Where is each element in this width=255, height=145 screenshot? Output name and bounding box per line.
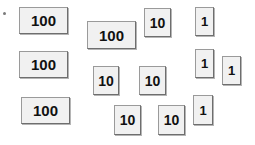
- place-value-card-hundred-4[interactable]: 100: [87, 21, 136, 49]
- card-label: 1: [201, 57, 208, 70]
- card-label: 10: [150, 15, 166, 29]
- card-label: 1: [199, 103, 206, 116]
- place-value-card-ten-5[interactable]: 10: [158, 105, 185, 135]
- place-value-card-ten-2[interactable]: 10: [93, 66, 119, 95]
- place-value-card-ten-3[interactable]: 10: [139, 66, 166, 95]
- place-value-card-hundred-3[interactable]: 100: [21, 97, 70, 124]
- card-label: 10: [145, 73, 161, 87]
- place-value-card-hundred-1[interactable]: 100: [19, 7, 68, 34]
- card-label: 100: [31, 57, 56, 72]
- card-label: 100: [33, 103, 58, 118]
- corner-dot-marker: [3, 12, 6, 15]
- card-label: 10: [98, 73, 114, 87]
- place-value-card-one-4[interactable]: 1: [193, 95, 213, 125]
- place-value-card-ten-4[interactable]: 10: [114, 105, 141, 135]
- card-label: 100: [31, 13, 56, 28]
- card-label: 1: [228, 64, 235, 77]
- place-value-card-hundred-2[interactable]: 100: [19, 51, 68, 78]
- card-label: 1: [201, 15, 208, 28]
- place-value-card-one-3[interactable]: 1: [222, 56, 241, 85]
- card-label: 100: [99, 27, 124, 42]
- place-value-card-canvas: 100 100 100 100 10 10 10 10 10 1 1 1 1: [0, 0, 255, 145]
- place-value-card-one-1[interactable]: 1: [195, 7, 214, 36]
- card-label: 10: [120, 113, 136, 127]
- card-label: 10: [164, 113, 180, 127]
- place-value-card-one-2[interactable]: 1: [195, 49, 214, 78]
- place-value-card-ten-1[interactable]: 10: [144, 8, 171, 37]
